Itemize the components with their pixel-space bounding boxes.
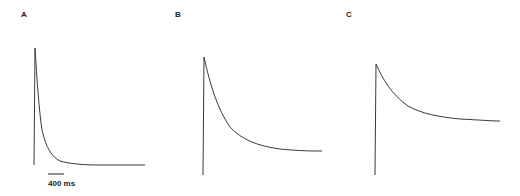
scale-bar-label: 400 ms (48, 179, 75, 188)
trace-c (375, 64, 500, 175)
trace-b (203, 57, 322, 175)
trace-a (34, 48, 145, 165)
traces-canvas (0, 0, 520, 196)
